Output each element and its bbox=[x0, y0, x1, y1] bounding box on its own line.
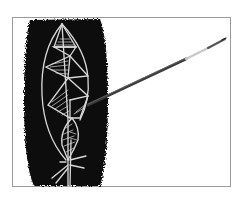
artwork-illustration bbox=[0, 0, 244, 199]
paintbrush bbox=[88, 38, 226, 105]
